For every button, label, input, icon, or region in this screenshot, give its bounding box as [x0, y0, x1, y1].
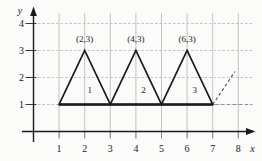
x-tick-label: 5: [159, 143, 164, 154]
triangle-number-label: 1: [88, 85, 93, 95]
x-tick-label: 4: [133, 143, 138, 154]
x-tick-label: 7: [210, 143, 215, 154]
x-tick-label: 1: [57, 143, 62, 154]
x-tick-label: 3: [108, 143, 113, 154]
x-tick-label: 2: [82, 143, 87, 154]
triangle-number-label: 2: [141, 85, 146, 95]
y-tick-label: 3: [19, 45, 24, 56]
x-tick-label: 6: [185, 143, 190, 154]
apex-coordinate-label: (4,3): [127, 34, 144, 44]
x-axis-arrowhead-icon: [246, 128, 256, 135]
y-axis-arrowhead-icon: [30, 7, 37, 17]
x-tick-label: 8: [236, 143, 241, 154]
apex-coordinate-label: (2,3): [76, 34, 93, 44]
y-tick-label: 4: [19, 18, 24, 29]
y-tick-label: 2: [19, 72, 24, 83]
y-axis-label: y: [17, 5, 23, 16]
dashed-continuation-diagonal: [213, 72, 235, 105]
apex-coordinate-label: (6,3): [178, 34, 195, 44]
triangle-pattern-figure: 123412345678yx(2,3)1(4,3)2(6,3)3: [0, 0, 262, 161]
y-tick-label: 1: [19, 99, 24, 110]
triangle-number-label: 3: [193, 85, 198, 95]
x-axis-label: x: [249, 143, 255, 154]
coordinate-grid: 123412345678yx(2,3)1(4,3)2(6,3)3: [0, 0, 262, 161]
